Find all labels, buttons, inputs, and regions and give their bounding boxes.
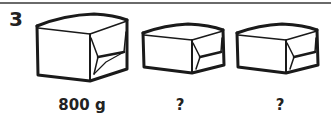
package-box-icon: [234, 22, 322, 78]
weight-label: 800 g: [42, 96, 122, 114]
top-divider: [0, 2, 331, 4]
package-box-icon: [34, 12, 132, 84]
exercise-number: 3: [9, 9, 23, 29]
package-box-icon: [140, 22, 228, 78]
unknown-weight-label: ?: [240, 96, 320, 114]
unknown-weight-label: ?: [140, 96, 220, 114]
